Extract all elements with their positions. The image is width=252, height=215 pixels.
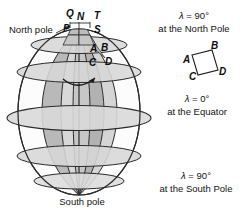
inset-point-c-label: C	[189, 71, 196, 83]
annotation-north-value: = 90°	[184, 10, 209, 21]
pole-tick-marks	[70, 22, 90, 29]
north-pole-label: North pole	[9, 25, 53, 36]
sphere-group	[7, 22, 151, 195]
annotation-equator-value: = 0°	[189, 93, 209, 104]
annotation-north-line1: λ = 90°	[140, 11, 248, 22]
inset-point-b-label: B	[211, 40, 218, 52]
point-q-label: Q	[66, 8, 74, 20]
annotation-north-line2: at the North Pole	[140, 24, 248, 35]
cell-a-label: A	[90, 43, 97, 55]
inset-point-a-label: A	[183, 54, 190, 66]
parallel-disc-south-mid	[17, 146, 141, 167]
point-t-label: T	[94, 10, 100, 22]
cell-c-label: C	[89, 57, 96, 69]
south-pole-label: South pole	[52, 197, 112, 208]
parallel-disc-equator	[7, 106, 151, 131]
annotation-south-line2: at the South Pole	[143, 184, 249, 195]
point-p-label: P	[63, 23, 70, 35]
parallel-disc-south-low	[34, 173, 124, 189]
annotation-equator-line1: λ = 0°	[146, 94, 248, 105]
annotation-south-value: = 90°	[186, 170, 211, 181]
annotation-equator-line2: at the Equator	[146, 107, 248, 118]
point-n-label: N	[77, 11, 84, 23]
cell-b-label: B	[101, 42, 108, 54]
inset-point-d-label: D	[219, 66, 226, 78]
parallel-disc-north-mid	[17, 62, 141, 83]
cell-d-label: D	[105, 56, 112, 68]
point-s-label: S	[94, 24, 101, 36]
annotation-south-line1: λ = 90°	[143, 171, 249, 182]
